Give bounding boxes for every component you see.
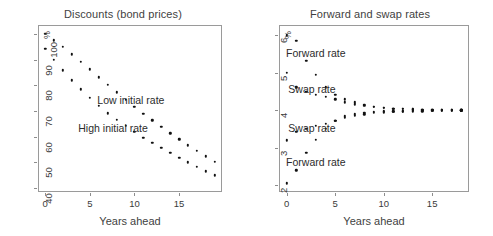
left-plot-area: [38, 25, 222, 192]
y-axis-tick-mark: [275, 35, 278, 36]
y-axis-tick-mark: [34, 34, 37, 35]
y-axis-unit-label: %: [42, 31, 52, 39]
y-axis-tick-label: 3: [278, 150, 289, 155]
series-annotation-label: Swap rate: [288, 122, 335, 134]
y-axis-tick-mark: [34, 85, 37, 86]
y-axis-tick-label: 50: [43, 168, 54, 179]
x-axis-tick-mark: [179, 193, 180, 196]
x-axis-tick-mark: [287, 193, 288, 196]
y-axis-unit-label: %: [283, 31, 293, 39]
x-axis-tick-label: 10: [378, 198, 389, 209]
series-annotation-label: High initial rate: [78, 122, 147, 134]
series-annotation-label: Forward rate: [286, 47, 346, 59]
y-axis-tick-label: 80: [43, 91, 54, 102]
figure-container: Discounts (bond prices) 4050607080901000…: [0, 0, 493, 236]
x-axis-tick-label: 5: [87, 198, 92, 209]
x-axis-tick-mark: [134, 193, 135, 196]
y-axis-tick-label: 60: [43, 142, 54, 153]
y-axis-tick-mark: [275, 185, 278, 186]
x-axis-tick-label: 0: [42, 198, 47, 209]
y-axis-tick-mark: [34, 162, 37, 163]
x-axis-tick-label: 5: [333, 198, 338, 209]
y-axis-tick-mark: [34, 137, 37, 138]
x-axis-tick-mark: [432, 193, 433, 196]
left-panel-title: Discounts (bond prices): [0, 8, 246, 20]
panel-rates: Forward and swap rates 23456051015Years …: [247, 0, 493, 236]
y-axis-tick-mark: [275, 148, 278, 149]
x-axis-tick-mark: [335, 193, 336, 196]
series-annotation-label: Swap rate: [288, 83, 335, 95]
x-axis-tick-mark: [45, 193, 46, 196]
y-axis-tick-mark: [34, 60, 37, 61]
series-annotation-label: Low initial rate: [97, 94, 164, 106]
right-panel-title: Forward and swap rates: [247, 8, 493, 20]
x-axis-tick-mark: [90, 193, 91, 196]
x-axis-label: Years ahead: [99, 215, 160, 227]
y-axis-tick-mark: [275, 73, 278, 74]
y-axis-tick-label: 5: [278, 76, 289, 81]
x-axis-label: Years ahead: [343, 215, 404, 227]
x-axis-tick-mark: [384, 193, 385, 196]
panel-discounts: Discounts (bond prices) 4050607080901000…: [0, 0, 246, 236]
y-axis-tick-mark: [34, 188, 37, 189]
y-axis-tick-label: 4: [278, 113, 289, 118]
y-axis-tick-label: 100: [48, 42, 59, 58]
y-axis-tick-mark: [275, 110, 278, 111]
series-annotation-label: Forward rate: [286, 156, 346, 168]
x-axis-tick-label: 15: [427, 198, 438, 209]
x-axis-tick-label: 10: [129, 198, 140, 209]
y-axis-tick-label: 70: [43, 116, 54, 127]
y-axis-tick-label: 90: [43, 65, 54, 76]
x-axis-tick-label: 15: [174, 198, 185, 209]
y-axis-tick-mark: [34, 111, 37, 112]
x-axis-tick-label: 0: [284, 198, 289, 209]
